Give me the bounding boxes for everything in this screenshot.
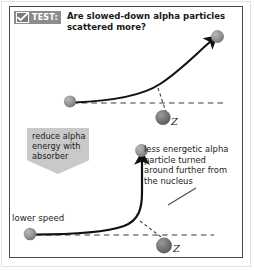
test-badge: TEST:: [14, 11, 61, 24]
absorber-callout-label: reduce alpha energy with absorber: [32, 131, 90, 162]
bottom-nucleus-label: Z: [173, 244, 180, 254]
checkmark-icon: [16, 12, 29, 23]
test-badge-label: TEST:: [32, 12, 58, 23]
scattering-figure: TEST: Are slowed-down alpha particles sc…: [0, 0, 254, 270]
lower-speed-label: lower speed: [12, 213, 64, 223]
top-nucleus-label: Z: [171, 117, 178, 127]
figure-header: TEST: Are slowed-down alpha particles sc…: [14, 11, 238, 32]
figure-question: Are slowed-down alpha particles scattere…: [67, 11, 235, 32]
scattering-annotation-label: less energetic alpha particle turned aro…: [144, 144, 236, 186]
